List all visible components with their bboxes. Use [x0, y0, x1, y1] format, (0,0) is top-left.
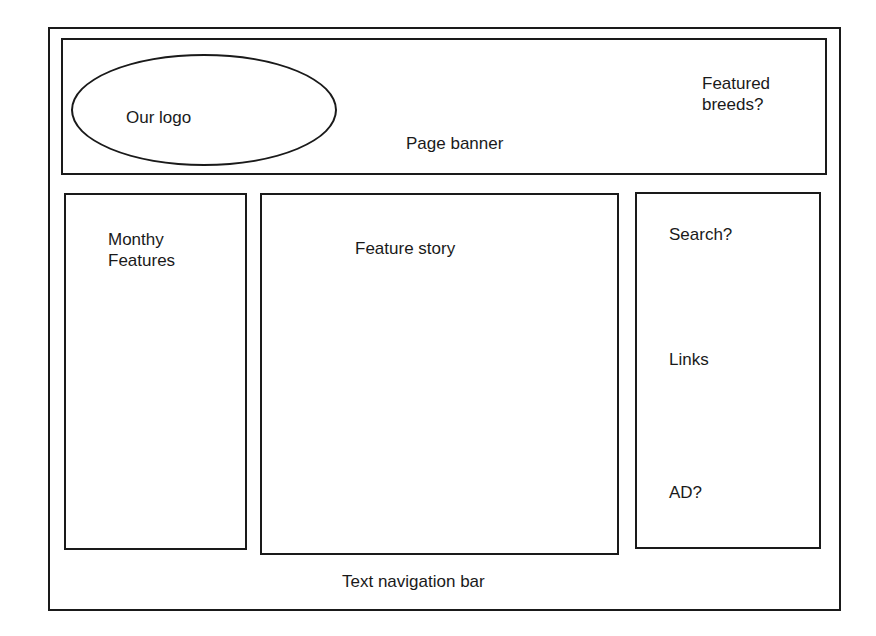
logo-ellipse [71, 54, 337, 166]
text-navigation-bar-label: Text navigation bar [342, 571, 485, 592]
search-label: Search? [669, 224, 732, 245]
logo-label: Our logo [126, 107, 191, 128]
ad-label: AD? [669, 482, 702, 503]
links-label: Links [669, 349, 709, 370]
feature-story-label: Feature story [355, 238, 455, 259]
sidebar-column [635, 192, 821, 549]
featured-breeds-label: Featured breeds? [702, 73, 770, 115]
page-banner-label: Page banner [406, 133, 503, 154]
monthly-features-label: Monthy Features [108, 229, 175, 271]
